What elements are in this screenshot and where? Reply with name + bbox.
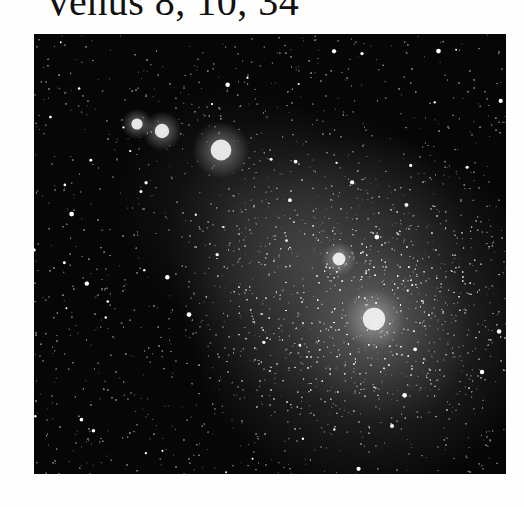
galaxy-photograph: [34, 34, 506, 474]
caption-text: Venus 8, 10, 34: [44, 0, 299, 25]
star-field: [34, 34, 506, 474]
